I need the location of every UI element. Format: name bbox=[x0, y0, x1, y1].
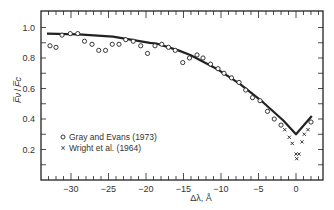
data-point-circle bbox=[139, 44, 143, 48]
data-point-circle bbox=[216, 67, 220, 71]
data-point-circle bbox=[117, 42, 121, 46]
x-tick-label: −20 bbox=[138, 184, 153, 194]
data-point-cross bbox=[291, 142, 294, 145]
x-axis-ticks bbox=[49, 11, 319, 180]
legend-item-gray-evans: Gray and Evans (1973) bbox=[61, 132, 157, 142]
y-axis-title-denominator: F̅c bbox=[13, 77, 23, 87]
legend: Gray and Evans (1973) × Wright et al. (1… bbox=[61, 132, 158, 153]
y-tick-label: 0.6 bbox=[22, 84, 35, 94]
legend-label: Gray and Evans (1973) bbox=[69, 132, 157, 142]
data-point-circle bbox=[90, 42, 94, 46]
data-point-circle bbox=[110, 42, 114, 46]
data-point-circle bbox=[60, 33, 64, 37]
data-point-circle bbox=[250, 96, 254, 100]
axes-frame bbox=[41, 11, 323, 180]
data-point-circle bbox=[265, 109, 269, 113]
x-axis-tick-labels: −30−25−20−15−10−50 bbox=[63, 184, 298, 194]
data-point-circle bbox=[195, 53, 199, 57]
x-tick-label: 0 bbox=[293, 184, 298, 194]
x-tick-label: −30 bbox=[63, 184, 78, 194]
x-tick-label: −10 bbox=[213, 184, 228, 194]
cross-marker-icon: × bbox=[61, 143, 66, 153]
x-tick-label: −15 bbox=[176, 184, 191, 194]
y-tick-label: 1.0 bbox=[22, 23, 35, 33]
data-point-cross bbox=[300, 140, 303, 143]
y-tick-label: 0.2 bbox=[22, 145, 35, 155]
x-tick-label: −5 bbox=[253, 184, 263, 194]
data-point-circle bbox=[208, 62, 212, 66]
data-point-circle bbox=[222, 71, 226, 75]
data-point-cross bbox=[288, 136, 291, 139]
data-point-circle bbox=[229, 76, 233, 80]
data-point-circle bbox=[173, 48, 177, 52]
data-point-circle bbox=[166, 45, 170, 49]
data-point-circle bbox=[272, 117, 276, 121]
data-point-circle bbox=[124, 38, 128, 42]
data-point-circle bbox=[103, 48, 107, 52]
data-point-cross bbox=[306, 128, 309, 131]
circle-marker-icon bbox=[61, 135, 65, 139]
data-point-circle bbox=[258, 99, 262, 103]
y-axis-title: F̅ν / F̅c bbox=[13, 77, 23, 103]
data-point-circle bbox=[187, 56, 191, 60]
data-point-circle bbox=[82, 39, 86, 43]
legend-label: Wright et al. (1964) bbox=[69, 143, 141, 153]
data-point-cross bbox=[297, 152, 300, 155]
data-point-circle bbox=[97, 48, 101, 52]
y-tick-label: 0.8 bbox=[22, 53, 35, 63]
x-axis-title: Δλ, Å bbox=[190, 193, 212, 203]
y-axis-tick-labels: 0.20.40.60.81.0 bbox=[22, 23, 35, 155]
data-point-cross bbox=[295, 157, 298, 160]
chart: −30−25−20−15−10−50 0.20.40.60.81.0 Gray … bbox=[0, 0, 334, 210]
data-point-circle bbox=[68, 31, 72, 35]
data-point-circle bbox=[153, 44, 157, 48]
data-point-cross bbox=[303, 133, 306, 136]
data-point-cross bbox=[283, 128, 286, 131]
data-point-circle bbox=[279, 123, 283, 127]
data-point-circle bbox=[309, 120, 313, 124]
data-point-circle bbox=[131, 39, 135, 43]
y-axis-title-numerator: F̅ν bbox=[13, 93, 23, 103]
data-point-circle bbox=[201, 56, 205, 60]
data-point-circle bbox=[145, 51, 149, 55]
plot-frame bbox=[41, 11, 323, 180]
x-tick-label: −25 bbox=[101, 184, 116, 194]
data-point-circle bbox=[237, 80, 241, 84]
data-point-circle bbox=[48, 44, 52, 48]
data-point-cross bbox=[294, 152, 297, 155]
data-point-circle bbox=[181, 60, 185, 64]
data-point-circle bbox=[160, 42, 164, 46]
data-point-circle bbox=[244, 88, 248, 92]
data-point-circle bbox=[54, 45, 58, 49]
data-point-circle bbox=[76, 31, 80, 35]
y-tick-label: 0.4 bbox=[22, 114, 35, 124]
legend-item-wright: × Wright et al. (1964) bbox=[61, 143, 142, 153]
